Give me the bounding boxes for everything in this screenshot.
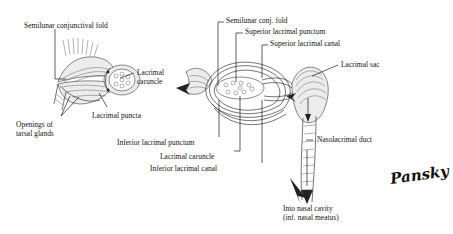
label-semilunar-conjunctival-fold: Semilunar conjunctival fold (24, 22, 108, 31)
label-lacrimal-caruncle-right: Lacrimal caruncle (160, 153, 214, 162)
lacrimal-apparatus-artwork (176, 62, 328, 204)
label-openings-of-tarsal-glands: Openings of tarsal glands (16, 121, 54, 138)
label-inferior-lacrimal-punctum: Inferior lacrimal punctum (117, 139, 195, 148)
label-lacrimal-puncta: Lacrimal puncta (92, 112, 141, 121)
label-into-nasal-cavity: Into nasal cavity (inf. nasal meatus) (283, 205, 339, 222)
label-superior-lacrimal-punctum: Superior lacrimal punctum (245, 28, 325, 37)
figure-artwork (0, 0, 453, 234)
label-nasolacrimal-duct: Nasolacrimal duct (317, 136, 372, 145)
label-superior-lacrimal-canal: Superior lacrimal canal (270, 40, 340, 49)
label-lacrimal-sac: Lacrimal sac (341, 61, 380, 70)
left-eye-artwork (54, 38, 140, 110)
figure-canvas: Semilunar conjunctival fold Lacrimal car… (0, 0, 453, 234)
label-lacrimal-caruncle-left: Lacrimal caruncle (137, 69, 164, 86)
label-semilunar-conj-fold: Semilunar conj. fold (226, 17, 288, 26)
label-inferior-lacrimal-canal: Inferior lacrimal canal (150, 165, 217, 174)
